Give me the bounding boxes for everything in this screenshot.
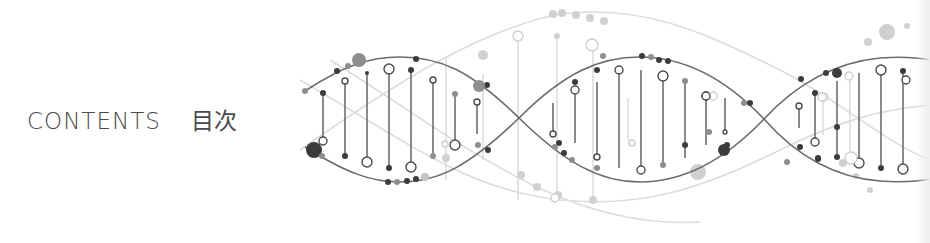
page-edge-shadow — [916, 0, 930, 243]
dna-helix-icon — [0, 0, 930, 243]
